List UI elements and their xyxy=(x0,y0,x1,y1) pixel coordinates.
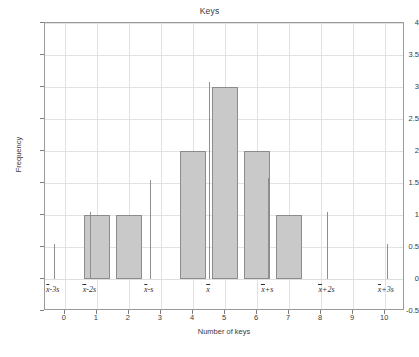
y-axis-tick-label: 1 xyxy=(381,210,419,219)
reference-line-mean-minus-3s xyxy=(54,244,55,279)
histogram-bar xyxy=(180,151,206,279)
histogram-bar xyxy=(244,151,270,279)
reference-label-mean-minus-3s: x-3s xyxy=(46,285,59,294)
x-axis-tick-label: 9 xyxy=(337,313,367,322)
y-axis-tick-label: 0 xyxy=(381,274,419,283)
reference-line-mean-minus-1s xyxy=(150,180,151,279)
zero-baseline xyxy=(45,279,403,280)
x-axis-tick-label: 5 xyxy=(209,313,239,322)
gridline-vertical xyxy=(321,23,322,309)
y-axis-tick xyxy=(40,118,44,119)
x-axis-tick-label: 0 xyxy=(49,313,79,322)
reference-label-mean-plus-3s: x+3s xyxy=(378,285,394,294)
x-axis-tick-label: 3 xyxy=(145,313,175,322)
y-axis-tick-label: 2.5 xyxy=(381,114,419,123)
histogram-bar xyxy=(212,87,238,279)
x-axis-tick-label: 4 xyxy=(177,313,207,322)
x-axis-tick-label: 8 xyxy=(305,313,335,322)
y-axis-tick xyxy=(40,246,44,247)
histogram-bar xyxy=(276,215,302,279)
figure-canvas: Keys -0.500.511.522.533.54 012345678910 … xyxy=(0,0,419,357)
reference-line-mean-plus-2s xyxy=(327,212,328,279)
reference-label-mean-plus-1s: x+s xyxy=(261,285,273,294)
gridline-vertical xyxy=(65,23,66,309)
y-axis-tick xyxy=(40,214,44,215)
y-axis-tick xyxy=(40,22,44,23)
y-axis-tick xyxy=(40,310,44,311)
y-axis-tick xyxy=(40,150,44,151)
x-axis-label: Number of keys xyxy=(44,327,404,336)
y-axis-label: Frequency xyxy=(14,115,23,195)
x-axis-tick-label: 1 xyxy=(81,313,111,322)
x-axis-tick-label: 2 xyxy=(113,313,143,322)
y-axis-tick-label: 0.5 xyxy=(381,242,419,251)
y-axis-tick-label: 4 xyxy=(381,18,419,27)
x-axis-tick-label: 7 xyxy=(273,313,303,322)
reference-line-mean-plus-1s xyxy=(268,178,269,279)
y-axis-tick xyxy=(40,54,44,55)
reference-label-mean-minus-2s: x-2s xyxy=(83,285,96,294)
gridline-horizontal xyxy=(45,55,403,56)
reference-line-mean xyxy=(209,82,210,279)
chart-title: Keys xyxy=(0,6,419,16)
reference-label-mean: x xyxy=(206,285,210,294)
reference-label-mean-plus-2s: x+2s xyxy=(318,285,334,294)
y-axis-tick-label: 2 xyxy=(381,146,419,155)
y-axis-tick-label: 3.5 xyxy=(381,50,419,59)
y-axis-tick-label: 3 xyxy=(381,82,419,91)
y-axis-tick xyxy=(40,278,44,279)
x-axis-tick-label: 10 xyxy=(369,313,399,322)
histogram-bar xyxy=(116,215,142,279)
reference-line-mean-minus-2s xyxy=(90,212,91,279)
gridline-horizontal xyxy=(45,23,403,24)
histogram-bar xyxy=(84,215,110,279)
y-axis-tick-label: 1.5 xyxy=(381,178,419,187)
reference-label-mean-minus-1s: x-s xyxy=(144,285,153,294)
gridline-vertical xyxy=(353,23,354,309)
y-axis-tick xyxy=(40,182,44,183)
gridline-vertical xyxy=(161,23,162,309)
plot-area xyxy=(44,22,404,310)
y-axis-tick xyxy=(40,86,44,87)
x-axis-tick-label: 6 xyxy=(241,313,271,322)
